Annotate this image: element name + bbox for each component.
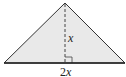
base-variable: x <box>66 65 71 77</box>
height-label: x <box>68 32 73 44</box>
base-label: 2x <box>60 66 71 77</box>
